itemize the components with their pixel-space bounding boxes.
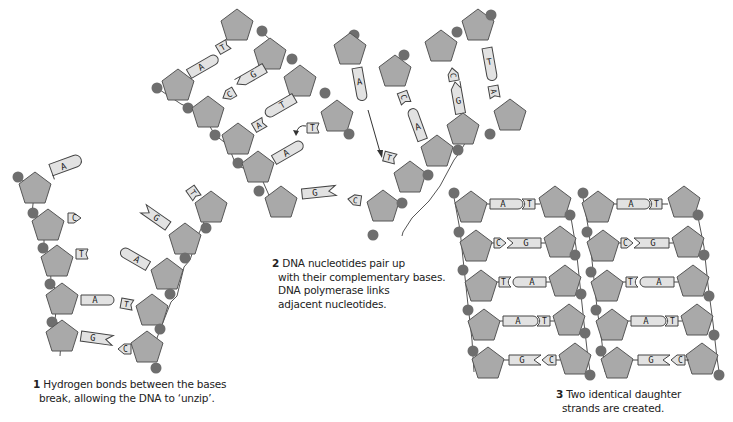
base-pair-c-g: C G <box>492 238 545 248</box>
strand-right: T G A T C <box>118 185 227 373</box>
svg-text:A: A <box>515 316 521 326</box>
phosphate-icon <box>38 243 49 254</box>
phosphate-icon <box>399 50 410 61</box>
phosphate-icon <box>180 253 191 264</box>
caption-line: with their complementary bases. <box>272 271 445 285</box>
base-pair-g-c: G C <box>633 355 689 365</box>
phosphate-icon <box>165 289 176 300</box>
svg-text:C: C <box>123 345 128 354</box>
svg-text:T: T <box>527 200 532 209</box>
caption-step-1: 1 Hydrogen bonds between the bases break… <box>33 378 226 405</box>
phosphate-icon <box>155 324 166 335</box>
phosphate-icon <box>201 223 212 234</box>
panel-1-unzipping: A C T A G <box>13 153 228 373</box>
phosphate-icon <box>714 370 725 381</box>
pentagon-icon <box>677 265 709 296</box>
caption-line: Hydrogen bonds between the bases <box>43 378 226 390</box>
pentagon-icon <box>447 113 479 144</box>
phosphate-icon <box>709 330 720 341</box>
pentagon-icon <box>468 309 500 340</box>
phosphate-icon <box>368 230 379 241</box>
base-pair-a-t: A T <box>614 199 668 209</box>
phosphate-icon <box>565 210 576 221</box>
phosphate-icon <box>254 186 265 197</box>
pentagon-icon <box>136 294 168 325</box>
pentagon-icon <box>321 100 353 131</box>
base-pair-t-a: T A <box>623 277 678 287</box>
svg-text:G: G <box>312 187 318 198</box>
pentagon-icon <box>421 135 453 166</box>
phosphate-icon <box>693 210 704 221</box>
pentagon-icon <box>681 304 713 335</box>
dna-replication-diagram: A C T A G <box>0 0 733 422</box>
base-a: A <box>187 53 221 78</box>
base-t: T <box>307 123 319 133</box>
phosphate-icon <box>320 88 331 99</box>
arrow-head-icon <box>293 130 299 136</box>
pentagon-icon <box>367 190 399 221</box>
base-t: T <box>186 185 201 201</box>
svg-text:T: T <box>654 200 659 209</box>
daughter-strand-1: A T C G T A <box>449 186 596 381</box>
pentagon-icon <box>284 65 316 96</box>
base-a: T <box>263 94 297 119</box>
phosphate-icon <box>458 265 469 276</box>
caption-step-3: 3 Two identical daughter strands are cre… <box>556 388 681 415</box>
pentagon-icon <box>192 96 224 127</box>
pentagon-icon <box>394 161 426 192</box>
base-t: A <box>488 85 500 99</box>
svg-text:A: A <box>529 277 535 287</box>
base-a: A <box>119 246 151 270</box>
svg-text:G: G <box>648 355 653 365</box>
phosphate-icon <box>287 54 298 65</box>
caption-line: break, allowing the DNA to ‘unzip’. <box>33 392 226 406</box>
phosphate-icon <box>210 130 221 141</box>
svg-text:G: G <box>650 238 655 248</box>
base-t: T <box>120 298 134 310</box>
phosphate-icon <box>423 170 434 181</box>
svg-text:C: C <box>678 356 683 365</box>
base-pair-a-t: A T <box>628 316 682 326</box>
pentagon-icon <box>686 343 718 374</box>
svg-text:G: G <box>523 238 528 248</box>
pentagon-icon <box>460 230 492 261</box>
svg-text:A: A <box>92 295 98 305</box>
base-t: C <box>397 90 411 105</box>
base-g: G <box>80 331 113 345</box>
svg-text:A: A <box>643 316 649 326</box>
free-nucleotide: A <box>334 30 383 159</box>
pentagon-icon <box>494 99 526 130</box>
svg-text:A: A <box>656 277 662 287</box>
base-c: C <box>68 213 81 223</box>
svg-text:T: T <box>628 278 633 287</box>
phosphate-icon <box>463 305 474 316</box>
pentagon-icon <box>254 38 286 69</box>
phosphate-icon <box>452 27 463 38</box>
phosphate-icon <box>704 291 715 302</box>
base-g: G <box>235 64 268 89</box>
phosphate-icon <box>13 172 24 183</box>
phosphate-icon <box>582 227 593 238</box>
phosphate-icon <box>585 370 596 381</box>
base-c: C <box>221 87 237 102</box>
phosphate-icon <box>152 83 163 94</box>
svg-text:T: T <box>542 317 547 326</box>
arrow-icon <box>368 110 380 152</box>
base-g: G <box>141 205 171 230</box>
base-pair-t-a: T A <box>497 277 550 287</box>
base-a: A <box>81 295 114 305</box>
pentagon-icon <box>559 343 591 374</box>
pentagon-icon <box>222 123 254 154</box>
pentagon-icon <box>596 309 628 340</box>
strand-left: A C T A G <box>13 153 115 351</box>
svg-text:C: C <box>496 239 501 248</box>
base-a: A <box>407 107 428 141</box>
arrow-head-icon <box>377 150 383 158</box>
svg-text:A: A <box>628 199 634 209</box>
pentagon-icon <box>334 33 366 64</box>
svg-text:C: C <box>623 239 628 248</box>
panel-3-daughter-strands: A T C G T A <box>449 186 725 381</box>
phosphate-icon <box>591 305 602 316</box>
caption-line: strands are created. <box>556 402 681 416</box>
pentagon-icon <box>169 223 201 254</box>
